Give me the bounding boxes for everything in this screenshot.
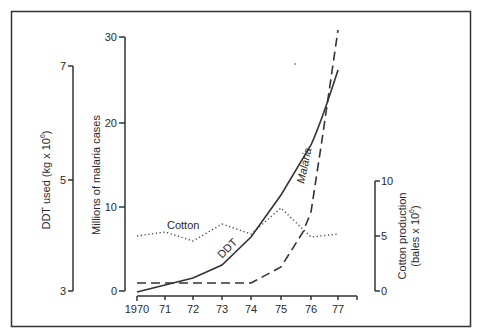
x-tick-71: 71 <box>159 303 171 315</box>
cotton-axis <box>375 181 380 291</box>
x-tick-76: 76 <box>305 303 317 315</box>
cotton-tick-10: 10 <box>381 175 393 187</box>
x-tick-1970: 1970 <box>125 303 149 315</box>
malaria-axis-label: Millions of malaria cases <box>90 115 102 235</box>
x-tick-72: 72 <box>187 303 199 315</box>
x-tick-75: 75 <box>275 303 287 315</box>
series-ddt <box>137 70 338 292</box>
ddt-axis-label: DDT used (kg x 106) <box>39 130 52 229</box>
x-tick-77: 77 <box>332 303 344 315</box>
chart: 7 5 3 DDT used (kg x 106) 30 20 10 0 Mil… <box>0 0 482 332</box>
x-tick-74: 74 <box>245 303 257 315</box>
label-ddt: DDT <box>215 236 240 261</box>
label-cotton: Cotton <box>167 219 199 231</box>
label-malaria: Malaria <box>294 147 313 185</box>
x-axis <box>137 296 357 301</box>
ddt-axis <box>68 66 73 291</box>
artifact-dot <box>294 63 296 65</box>
cotton-axis-label-line1: Cotton production <box>396 193 408 280</box>
cotton-tick-0: 0 <box>381 285 387 297</box>
ddt-tick-3: 3 <box>60 285 66 297</box>
malaria-axis <box>119 37 125 291</box>
cotton-tick-5: 5 <box>381 230 387 242</box>
malaria-tick-10: 10 <box>105 201 117 213</box>
x-tick-73: 73 <box>216 303 228 315</box>
malaria-tick-30: 30 <box>105 31 117 43</box>
cotton-axis-label-line2: (bales x 106) <box>408 205 421 266</box>
malaria-tick-0: 0 <box>111 285 117 297</box>
x-tick-labels: 1970 71 72 73 74 75 76 77 <box>125 303 344 315</box>
ddt-tick-7: 7 <box>60 60 66 72</box>
ddt-tick-5: 5 <box>60 174 66 186</box>
malaria-tick-20: 20 <box>105 117 117 129</box>
